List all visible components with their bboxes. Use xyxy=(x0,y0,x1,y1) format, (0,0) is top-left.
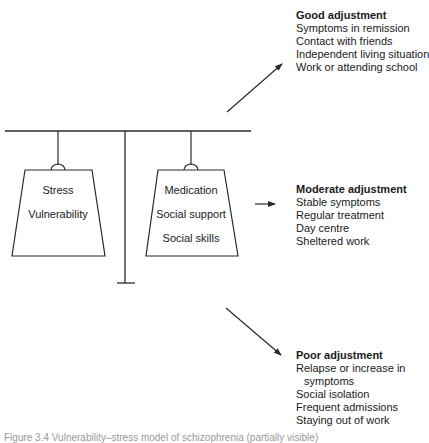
outcome-poor-item: Social isolation xyxy=(296,388,405,401)
outcome-good-title: Good adjustment xyxy=(296,9,429,22)
outcome-good-item: Work or attending school xyxy=(296,61,429,74)
outcome-moderate-title: Moderate adjustment xyxy=(296,183,407,196)
outcome-good-item: Independent living situation xyxy=(296,48,429,61)
outcome-moderate-item: Day centre xyxy=(296,222,407,235)
left-weight-label-1: Vulnerability xyxy=(28,208,88,220)
right-weight-label-0: Medication xyxy=(164,184,217,196)
outcome-good: Good adjustment Symptoms in remission Co… xyxy=(296,9,429,74)
outcome-moderate: Moderate adjustment Stable symptoms Regu… xyxy=(296,183,407,248)
outcome-good-item: Contact with friends xyxy=(296,35,429,48)
outcome-poor-item: symptoms xyxy=(296,375,405,388)
outcome-poor-item: Relapse or increase in xyxy=(296,362,405,375)
outcome-poor-item: Staying out of work xyxy=(296,414,405,427)
outcome-good-item: Symptoms in remission xyxy=(296,22,429,35)
right-weight-label-1: Social support xyxy=(156,208,226,220)
arrow-good xyxy=(227,64,282,112)
right-weight-label-2: Social skills xyxy=(163,232,220,244)
outcome-poor: Poor adjustment Relapse or increase in s… xyxy=(296,349,405,427)
right-weight: Medication Social support Social skills xyxy=(146,131,238,256)
outcome-poor-title: Poor adjustment xyxy=(296,349,405,362)
left-weight-label-0: Stress xyxy=(42,184,74,196)
outcome-moderate-item: Stable symptoms xyxy=(296,196,407,209)
outcome-moderate-item: Regular treatment xyxy=(296,209,407,222)
outcome-poor-item: Frequent admissions xyxy=(296,401,405,414)
arrow-poor xyxy=(226,308,281,355)
figure-caption: Figure 3.4 Vulnerability–stress model of… xyxy=(4,432,318,443)
left-weight: Stress Vulnerability xyxy=(12,131,105,256)
outcome-moderate-item: Sheltered work xyxy=(296,235,407,248)
